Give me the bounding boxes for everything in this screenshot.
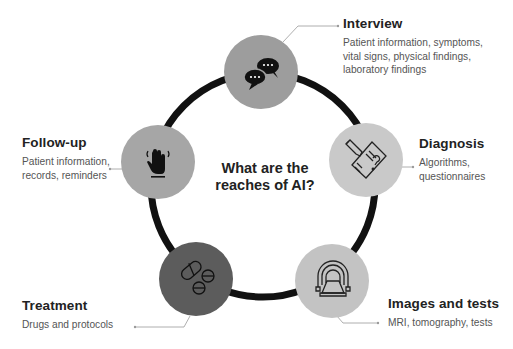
followup-title: Follow-up [22, 135, 110, 151]
treatment-label: Treatment Drugs and protocols [22, 298, 113, 332]
followup-node [121, 125, 195, 199]
treatment-connector-dot [134, 326, 136, 328]
followup-description: Patient information, records, reminders [22, 155, 110, 182]
diagnosis-label: Diagnosis Algorithms, questionnaires [419, 136, 485, 183]
images-description: MRI, tomography, tests [388, 316, 499, 330]
treatment-title: Treatment [22, 298, 113, 314]
interview-connector [283, 26, 338, 42]
interview-label: Interview Patient information, symptoms,… [343, 16, 483, 77]
images-connector-dot [377, 322, 379, 324]
images-desc-line: MRI, tomography, tests [388, 316, 499, 330]
treatment-description: Drugs and protocols [22, 318, 113, 332]
images-label: Images and tests MRI, tomography, tests [388, 296, 499, 330]
images-node [295, 244, 369, 318]
followup-desc-line: records, reminders [22, 169, 110, 183]
treatment-connector [135, 316, 190, 327]
diagnosis-node [329, 123, 403, 197]
diagnosis-desc-line: questionnaires [419, 170, 485, 184]
center-title: What are the reaches of AI? [200, 160, 330, 194]
treatment-node [159, 242, 233, 316]
interview-desc-line: vital signs, physical findings, [343, 50, 483, 64]
diagnosis-title: Diagnosis [419, 136, 485, 152]
treatment-desc-line: Drugs and protocols [22, 318, 113, 332]
diagnosis-desc-line: Algorithms, [419, 156, 485, 170]
center-title-line2: reaches of AI? [200, 177, 330, 194]
center-title-line1: What are the [200, 160, 330, 177]
interview-description: Patient information, symptoms, vital sig… [343, 36, 483, 77]
diagnosis-description: Algorithms, questionnaires [419, 156, 485, 183]
diagnosis-connector-dot [412, 166, 414, 168]
interview-connector-dot [337, 25, 339, 27]
interview-desc-line: Patient information, symptoms, [343, 36, 483, 50]
interview-node [224, 35, 298, 109]
images-title: Images and tests [388, 296, 499, 312]
followup-label: Follow-up Patient information, records, … [22, 135, 110, 182]
interview-desc-line: laboratory findings [343, 63, 483, 77]
followup-desc-line: Patient information, [22, 155, 110, 169]
interview-title: Interview [343, 16, 483, 32]
